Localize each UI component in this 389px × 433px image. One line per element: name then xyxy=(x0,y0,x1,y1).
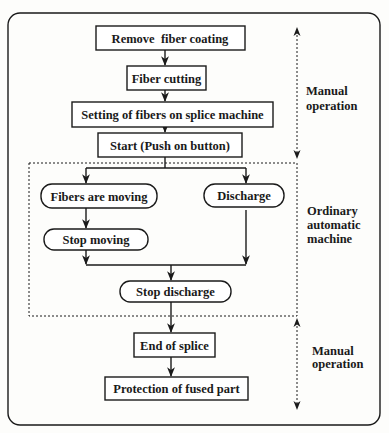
node-setting-fibers: Setting of fibers on splice machine xyxy=(72,102,273,127)
node-label: Remove fiber coating xyxy=(112,32,230,46)
arrow-up-icon xyxy=(294,27,301,36)
flowchart-canvas: Remove fiber coating Fiber cutting Setti… xyxy=(0,0,389,433)
node-label: Fibers are moving xyxy=(51,190,149,204)
node-start: Start (Push on button) xyxy=(98,133,242,157)
node-stop-moving: Stop moving xyxy=(44,229,148,250)
label-automatic: Ordinary automatic machine xyxy=(307,204,361,246)
node-fibers-moving: Fibers are moving xyxy=(41,184,157,208)
label-line: automatic xyxy=(307,218,361,232)
node-discharge: Discharge xyxy=(204,184,284,207)
node-end-splice: End of splice xyxy=(134,333,215,357)
label-line: Manual xyxy=(312,344,354,358)
node-fiber-cutting: Fiber cutting xyxy=(127,66,206,90)
arrow-up-icon xyxy=(294,318,301,327)
label-manual-top: Manual operation xyxy=(306,84,357,113)
label-manual-bottom: Manual operation xyxy=(312,344,363,371)
node-label: Stop discharge xyxy=(136,285,215,299)
node-label: End of splice xyxy=(140,339,209,353)
label-line: operation xyxy=(306,99,357,113)
label-line: operation xyxy=(312,357,363,371)
node-protection: Protection of fused part xyxy=(105,377,248,400)
node-label: Setting of fibers on splice machine xyxy=(81,108,264,122)
node-label: Start (Push on button) xyxy=(110,139,230,153)
node-label: Fiber cutting xyxy=(132,72,202,86)
manual-bottom-range-arrow xyxy=(294,318,301,410)
node-label: Protection of fused part xyxy=(113,382,240,396)
node-label: Discharge xyxy=(217,189,271,203)
manual-top-range-arrow xyxy=(294,27,301,159)
node-stop-discharge: Stop discharge xyxy=(120,281,231,302)
node-label: Stop moving xyxy=(62,233,130,247)
label-line: Ordinary xyxy=(307,204,358,218)
label-line: Manual xyxy=(306,84,348,98)
label-line: machine xyxy=(307,232,353,246)
node-remove-coating: Remove fiber coating xyxy=(96,26,245,50)
